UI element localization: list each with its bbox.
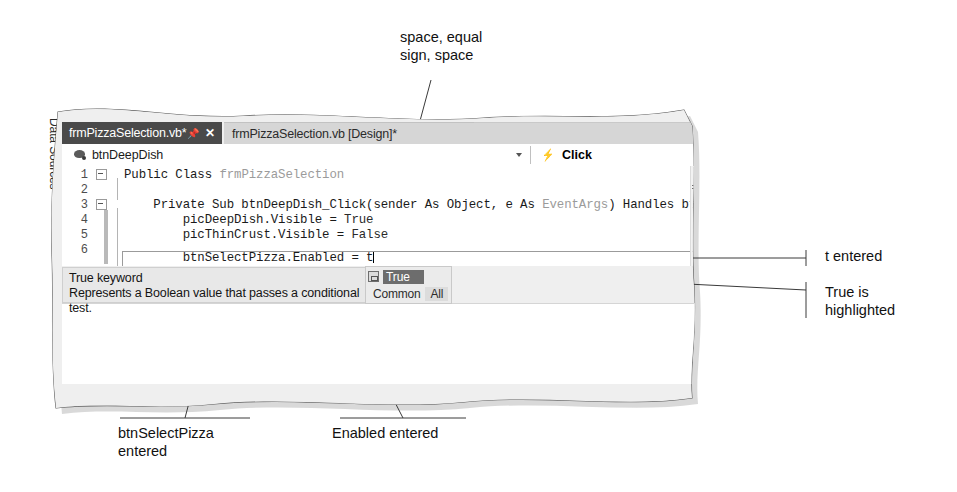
quick-info-description: Represents a Boolean value that passes a… <box>69 286 375 316</box>
line-number: 4 <box>62 213 88 227</box>
annotation-enabled-entered: Enabled entered <box>332 424 438 442</box>
tab-frmpizzaselection-vb-design[interactable]: frmPizzaSelection.vb [Design]* <box>224 122 474 144</box>
code-line-4: picDeepDish.Visible = True <box>124 213 373 227</box>
chevron-down-icon[interactable] <box>516 153 522 157</box>
current-line-highlight <box>122 251 702 266</box>
intellisense-tabs: Common All <box>368 286 448 301</box>
code-line-3: Private Sub btnDeepDish_Click(sender As … <box>124 198 702 212</box>
quick-info-tooltip: True keyword Represents a Boolean value … <box>62 267 382 303</box>
code-token: picThinCrust.Visible = <box>124 228 351 242</box>
lightning-bolt-icon: ⚡ <box>542 148 554 162</box>
code-editor[interactable]: 1 2 3 4 5 6 Public Class frmPizzaSelecti… <box>62 166 702 266</box>
visual-studio-window: frmPizzaSelection.vb* 📌 ✕ frmPizzaSelect… <box>44 106 704 416</box>
close-icon[interactable]: ✕ <box>205 126 215 140</box>
code-line-5: picThinCrust.Visible = False <box>124 228 388 242</box>
code-token: EventArgs <box>542 198 608 212</box>
intellisense-tab-all[interactable]: All <box>425 287 448 301</box>
tab-strip-filler <box>474 122 702 145</box>
code-token: picDeepDish.Visible = <box>124 213 344 227</box>
constant-icon <box>368 271 379 282</box>
intellisense-item-label: True <box>383 270 424 284</box>
scroll-up-arrow-icon[interactable] <box>694 169 700 173</box>
quick-info-title: True keyword <box>69 271 375 286</box>
collapse-box-icon[interactable] <box>96 199 107 210</box>
line-number: 2 <box>62 183 88 197</box>
intellisense-item-true[interactable]: True <box>368 269 449 284</box>
code-token: Public Class <box>124 168 219 182</box>
intellisense-popup[interactable]: True Common All <box>365 266 452 304</box>
method-dropdown[interactable]: ⚡ Click <box>540 144 592 166</box>
navbar-divider <box>530 146 531 164</box>
code-token: False <box>351 228 388 242</box>
tab-label: frmPizzaSelection.vb* <box>69 126 186 140</box>
intellisense-tab-common[interactable]: Common <box>368 287 425 301</box>
editor-navigation-bar: btnDeepDish ⚡ Click <box>62 144 702 167</box>
fold-guide-line <box>117 178 118 200</box>
tab-frmpizzaselection-vb[interactable]: frmPizzaSelection.vb* 📌 ✕ <box>62 122 222 144</box>
line-number: 1 <box>62 168 88 182</box>
annotation-t-entered: t entered <box>825 247 882 265</box>
class-dropdown[interactable]: btnDeepDish <box>62 144 532 166</box>
pin-icon[interactable]: 📌 <box>187 128 199 139</box>
line-number: 6 <box>62 243 88 257</box>
object-icon <box>74 150 87 161</box>
annotation-true-is-highlighted: True is highlighted <box>825 283 895 319</box>
window-content: frmPizzaSelection.vb* 📌 ✕ frmPizzaSelect… <box>44 106 704 416</box>
line-number: 3 <box>62 198 88 212</box>
code-token: True <box>344 213 373 227</box>
code-line-1: Public Class frmPizzaSelection <box>124 168 344 182</box>
code-token: Private Sub btnDeepDish_Click(sender As … <box>124 198 542 212</box>
change-margin-indicator <box>104 210 108 264</box>
editor-tab-strip: frmPizzaSelection.vb* 📌 ✕ frmPizzaSelect… <box>62 122 702 144</box>
annotation-btnselectpizza-entered: btnSelectPizza entered <box>118 424 214 460</box>
method-dropdown-value: Click <box>562 148 592 162</box>
figure-root: Data Sources frmPizzaSelection.vb* 📌 ✕ f… <box>0 0 957 492</box>
annotation-space-equal-sign-space: space, equal sign, space <box>400 28 482 64</box>
code-token: frmPizzaSelection <box>219 168 344 182</box>
code-token: ) Handles btnDeepDish.Cl <box>608 198 702 212</box>
fold-guide-line <box>117 208 118 266</box>
split-editor-icon[interactable] <box>691 182 704 192</box>
editor-vertical-scrollbar[interactable] <box>690 166 704 266</box>
collapse-box-icon[interactable] <box>96 169 107 180</box>
class-dropdown-value: btnDeepDish <box>92 148 163 162</box>
tab-label: frmPizzaSelection.vb [Design]* <box>232 127 397 141</box>
line-number: 5 <box>62 228 88 242</box>
